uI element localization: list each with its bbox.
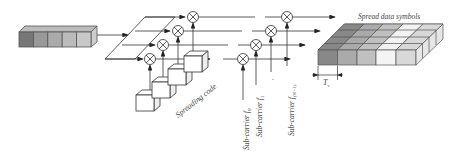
spread-data-symbols-label: Spread data symbols <box>358 12 420 21</box>
mc-cdma-diagram: Spreading code Sub-carrier f0 Sub-carrie… <box>0 0 464 154</box>
multiplier-icon <box>251 40 262 51</box>
subcarrier-label-n: Sub-carrier f(N−1) <box>287 84 297 136</box>
multiplier-icon <box>238 54 249 65</box>
spread-data-symbols-grid <box>318 24 443 65</box>
multiplier-icon <box>188 12 199 23</box>
subcarrier-label-0: Sub-carrier f0 <box>242 108 252 150</box>
multiplier-icon <box>266 26 277 37</box>
subcarrier-multipliers <box>238 12 293 65</box>
spreading-code-label: Spreading code <box>174 82 219 120</box>
subcarrier-label-1: Sub-carrier f1 <box>255 96 265 137</box>
input-data-blocks <box>19 26 97 47</box>
symbol-period-label: Ts <box>323 78 329 88</box>
multiplier-icon <box>158 40 169 51</box>
svg-text:.: . <box>272 73 274 82</box>
multiplier-icon <box>173 26 184 37</box>
symbol-period-marker <box>312 66 343 80</box>
multiplier-icon <box>145 54 156 65</box>
multiplier-icon <box>282 12 293 23</box>
